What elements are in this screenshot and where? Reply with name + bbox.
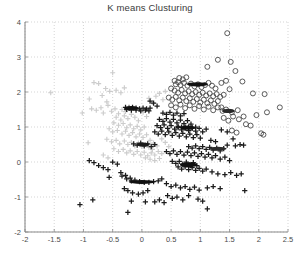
marker-plus (130, 190, 135, 195)
marker-plus (138, 127, 143, 132)
marker-plus (192, 150, 197, 155)
y-tick-label: 4 (17, 18, 21, 27)
marker-plus (114, 138, 119, 143)
marker-plus (191, 135, 196, 140)
marker-circle (241, 114, 246, 119)
marker-plus (195, 154, 200, 159)
marker-plus (180, 131, 185, 136)
blob-upper-left (124, 106, 139, 110)
marker-plus (187, 187, 192, 192)
marker-plus (205, 185, 210, 190)
marker-plus (124, 176, 129, 181)
marker-circle (205, 64, 210, 69)
marker-plus (165, 193, 170, 198)
marker-plus (109, 139, 114, 144)
x-tick-label: 0 (140, 235, 144, 244)
marker-plus (174, 152, 179, 157)
marker-plus (77, 202, 82, 207)
marker-plus (167, 120, 172, 125)
marker-circle (234, 130, 239, 135)
marker-plus (104, 137, 109, 142)
x-tick-label: 1 (198, 235, 202, 244)
marker-plus (86, 140, 91, 145)
marker-plus (135, 124, 140, 129)
marker-plus (166, 144, 171, 149)
marker-circle (250, 91, 255, 96)
marker-circle (235, 108, 240, 113)
tick-labels: -2-1.5-1-0.500.511.522.5-2-101234 (14, 18, 293, 244)
marker-plus (200, 199, 205, 204)
scatter-plot: -2-1.5-1-0.500.511.522.5-2-101234 (0, 0, 300, 258)
marker-circle (215, 57, 220, 62)
marker-plus (118, 170, 123, 175)
marker-plus (136, 118, 141, 123)
marker-plus (162, 122, 167, 127)
marker-plus (205, 206, 210, 211)
marker-plus (123, 129, 128, 134)
marker-plus (174, 194, 179, 199)
marker-plus (119, 173, 124, 178)
marker-plus (157, 156, 162, 161)
marker-plus (169, 184, 174, 189)
marker-circle (213, 86, 218, 91)
marker-plus (138, 153, 143, 158)
marker-plus (171, 117, 176, 122)
marker-circle (221, 115, 226, 120)
x-tick-label: -2 (22, 235, 29, 244)
marker-plus (105, 167, 110, 172)
marker-circle (219, 80, 224, 85)
marker-plus (171, 148, 176, 153)
marker-plus (237, 142, 242, 147)
marker-circle (211, 108, 216, 113)
blob-center (180, 126, 195, 130)
marker-circle (236, 117, 241, 122)
marker-circle (243, 122, 248, 127)
marker-circle (262, 92, 267, 97)
marker-plus (218, 186, 223, 191)
marker-plus (227, 158, 232, 163)
marker-plus (147, 106, 152, 111)
marker-circle (264, 110, 269, 115)
marker-plus (185, 150, 190, 155)
marker-plus (91, 160, 96, 165)
marker-plus (159, 136, 164, 141)
marker-plus (114, 115, 119, 120)
marker-plus (110, 159, 115, 164)
marker-plus (209, 169, 214, 174)
marker-plus (211, 184, 216, 189)
marker-circle (233, 69, 238, 74)
marker-circle (227, 87, 232, 92)
marker-plus (202, 155, 207, 160)
marker-plus (101, 153, 106, 158)
marker-plus (178, 149, 183, 154)
marker-plus (136, 192, 141, 197)
marker-plus (111, 146, 116, 151)
marker-plus (215, 171, 220, 176)
y-tick-label: -2 (14, 228, 21, 237)
marker-circle (228, 59, 233, 64)
marker-plus (187, 131, 192, 136)
marker-circle (254, 113, 259, 118)
marker-plus (157, 91, 162, 96)
marker-plus (166, 129, 171, 134)
marker-plus (164, 181, 169, 186)
marker-plus (107, 126, 112, 131)
marker-circle (215, 99, 220, 104)
marker-plus (122, 113, 127, 118)
marker-plus (96, 81, 101, 86)
marker-plus (144, 132, 149, 137)
marker-plus (173, 130, 178, 135)
marker-plus (91, 80, 96, 85)
marker-circle (248, 123, 253, 128)
marker-plus (122, 85, 127, 90)
marker-plus (80, 111, 85, 116)
marker-plus (116, 111, 121, 116)
marker-plus (163, 89, 168, 94)
x-tick-label: 1.5 (224, 235, 234, 244)
marker-plus (206, 152, 211, 157)
marker-plus (124, 125, 129, 130)
blob-right-mid (210, 147, 226, 151)
marker-plus (148, 157, 153, 162)
marker-plus (98, 105, 103, 110)
marker-plus (163, 140, 168, 145)
